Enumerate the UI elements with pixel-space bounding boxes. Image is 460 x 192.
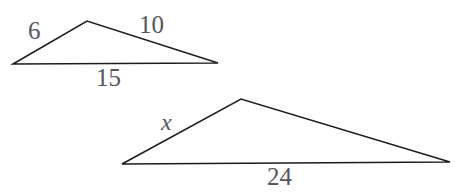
- triangle-small-left-side-label: 6: [28, 18, 41, 43]
- triangles-drawing: [0, 0, 460, 192]
- similar-triangles-figure: 6 10 15 x 24: [0, 0, 460, 192]
- triangle-small-outline: [13, 21, 218, 64]
- triangle-small-right-side-label: 10: [139, 12, 164, 37]
- triangle-large-base-label: 24: [267, 164, 292, 189]
- triangle-small-shape: [13, 21, 218, 64]
- triangle-small-base-label: 15: [96, 65, 121, 90]
- triangle-large-left-side-label: x: [161, 110, 172, 134]
